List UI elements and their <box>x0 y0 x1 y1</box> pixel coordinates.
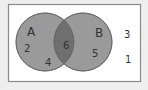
region-a-only-value: 2 <box>24 43 30 54</box>
set-a-label: A <box>27 25 36 39</box>
outside-value: 1 <box>125 54 131 65</box>
set-b-label: B <box>95 26 103 40</box>
region-a-only-value: 4 <box>45 57 51 68</box>
region-b-only-value: 5 <box>92 48 98 59</box>
intersection-value: 6 <box>63 40 69 51</box>
venn-diagram: A 2 4 6 B 5 3 1 <box>0 0 148 90</box>
outside-value: 3 <box>124 29 130 40</box>
